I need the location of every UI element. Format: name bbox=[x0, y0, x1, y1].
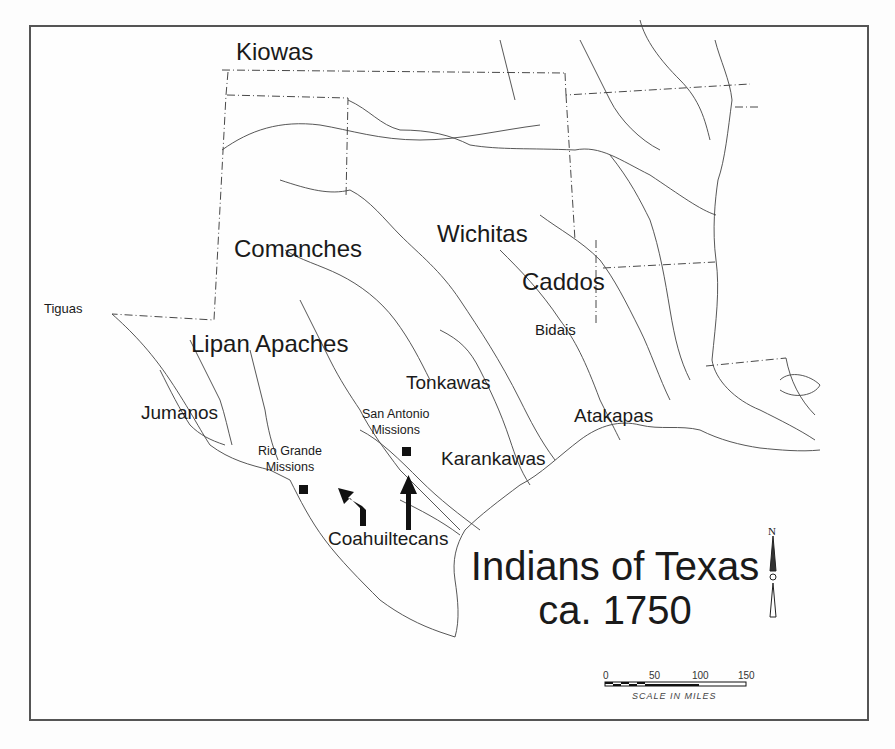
north-arrow-shape bbox=[770, 536, 776, 617]
tribe-label-atakapas: Atakapas bbox=[574, 406, 653, 425]
tribe-label-caddos: Caddos bbox=[522, 270, 605, 294]
north-arrow-label: N bbox=[768, 525, 776, 537]
tribe-label-coahuiltecans: Coahuiltecans bbox=[328, 529, 448, 548]
scale-tick-50: 50 bbox=[649, 670, 660, 681]
scale-tick-150: 150 bbox=[738, 670, 755, 681]
tribe-label-tonkawas: Tonkawas bbox=[406, 373, 491, 392]
tribe-label-jumanos: Jumanos bbox=[141, 403, 218, 422]
tribe-label-tiguas: Tiguas bbox=[44, 302, 83, 315]
map-title: Indians of Texas ca. 1750 bbox=[470, 544, 760, 632]
san-antonio-mission-marker bbox=[402, 447, 411, 456]
tribe-label-comanches: Comanches bbox=[234, 237, 362, 261]
tribe-label-karankawas: Karankawas bbox=[441, 449, 546, 468]
rio-grande-missions-line1: Rio Grande bbox=[258, 444, 322, 460]
scale-tick-100: 100 bbox=[692, 670, 709, 681]
tribe-label-kiowas: Kiowas bbox=[236, 40, 313, 64]
rio-grande-missions-line2: Missions bbox=[258, 460, 322, 476]
scale-bar bbox=[605, 682, 746, 686]
tribe-label-wichitas: Wichitas bbox=[437, 222, 528, 246]
san-antonio-missions-label: San Antonio Missions bbox=[362, 407, 429, 438]
state-boundaries bbox=[112, 70, 786, 366]
san-antonio-missions-line1: San Antonio bbox=[362, 407, 429, 423]
tribe-label-bidais: Bidais bbox=[535, 322, 576, 337]
scale-tick-0: 0 bbox=[603, 670, 609, 681]
rio-grande-mission-marker bbox=[299, 485, 308, 494]
rio-grande-missions-label: Rio Grande Missions bbox=[258, 444, 322, 475]
map-title-line2: ca. 1750 bbox=[470, 588, 760, 632]
map-title-line1: Indians of Texas bbox=[470, 544, 760, 588]
rio-grande bbox=[112, 314, 455, 637]
tribe-label-lipan-apaches: Lipan Apaches bbox=[191, 332, 348, 356]
san-antonio-missions-line2: Missions bbox=[362, 423, 429, 439]
scale-caption: SCALE IN MILES bbox=[632, 691, 717, 701]
